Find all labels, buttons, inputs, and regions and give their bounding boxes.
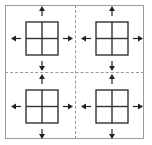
cell-top-right (76, 5, 146, 72)
cell-bottom-left (6, 73, 76, 140)
grid-with-arrows-icon (76, 5, 146, 72)
cell-bottom-right (76, 73, 146, 140)
cell-top-left (6, 5, 76, 72)
grid-with-arrows-icon (76, 73, 146, 140)
grid-with-arrows-icon (6, 73, 76, 140)
grid-with-arrows-icon (6, 5, 76, 72)
